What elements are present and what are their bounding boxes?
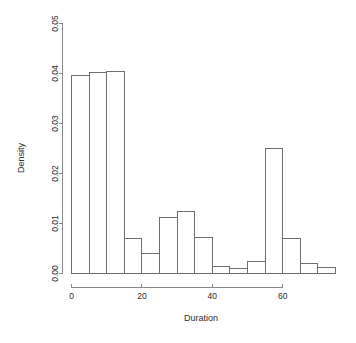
histogram-bar — [89, 73, 107, 274]
y-axis — [59, 24, 63, 274]
y-tick-label: 0.01 — [50, 215, 60, 232]
x-axis — [72, 284, 283, 288]
histogram-chart: 0.000.010.020.030.040.05 0204060 Duratio… — [0, 0, 356, 343]
histogram-bar — [300, 263, 318, 274]
y-tick-label: 0.04 — [50, 65, 60, 82]
x-tick-label: 0 — [69, 291, 74, 301]
y-tick-label: 0.00 — [50, 265, 60, 282]
histogram-bar — [160, 217, 178, 274]
histogram-bar — [248, 261, 266, 274]
plot-area: 0.000.010.020.030.040.05 0204060 Duratio… — [0, 0, 356, 343]
histogram-bar — [195, 238, 213, 274]
y-axis-title: Density — [16, 142, 26, 173]
y-tick-label: 0.02 — [50, 165, 60, 182]
histogram-bar — [177, 211, 195, 274]
x-tick-label: 40 — [208, 291, 218, 301]
histogram-bar — [230, 268, 248, 274]
histogram-bar — [265, 148, 283, 274]
histogram-bar — [212, 267, 230, 274]
x-tick-label: 20 — [137, 291, 147, 301]
y-tick-label: 0.03 — [50, 115, 60, 132]
x-axis-title: Duration — [184, 313, 218, 323]
histogram-bar — [142, 254, 160, 274]
y-tick-label: 0.05 — [50, 15, 60, 32]
histogram-bar — [318, 267, 336, 274]
histogram-bar — [72, 76, 90, 274]
x-tick-label: 60 — [278, 291, 288, 301]
histogram-bar — [124, 239, 142, 274]
histogram-bars — [72, 71, 336, 274]
histogram-bar — [107, 71, 125, 274]
x-tick-labels: 0204060 — [69, 291, 288, 301]
histogram-bar — [283, 239, 301, 274]
y-tick-labels: 0.000.010.020.030.040.05 — [50, 15, 60, 282]
